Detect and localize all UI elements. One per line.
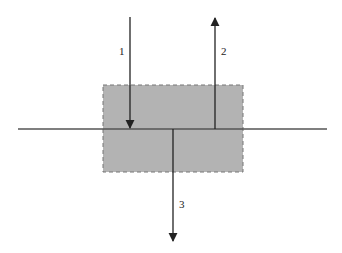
arrow-3-label: 3 (179, 198, 185, 210)
arrow-1-label: 1 (119, 45, 125, 57)
arrow-2-label: 2 (221, 45, 227, 57)
diagram-canvas: 1 2 3 (0, 0, 342, 253)
